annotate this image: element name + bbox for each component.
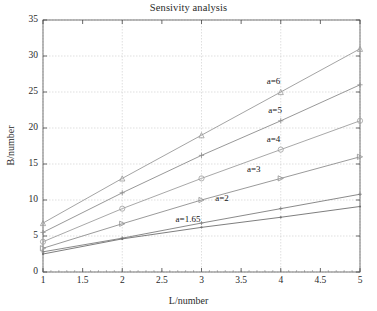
x-tick-label: 1 — [28, 275, 58, 285]
x-tick-label: 2.5 — [147, 275, 177, 285]
series-label: a=2 — [215, 193, 229, 203]
x-tick-label: 3.5 — [226, 275, 256, 285]
series-label: a=6 — [267, 76, 281, 86]
gridlines — [43, 20, 360, 272]
x-tick-label: 5 — [345, 275, 375, 285]
x-tick-label: 1.5 — [68, 275, 98, 285]
x-tick-label: 3 — [187, 275, 217, 285]
series-label: a=3 — [247, 164, 261, 174]
chart-container: Sensivity analysis B/number L/number 051… — [0, 0, 377, 311]
chart-title: Sensivity analysis — [0, 2, 377, 13]
y-tick-label: 25 — [12, 86, 38, 96]
x-tick-label: 4 — [266, 275, 296, 285]
y-tick-label: 10 — [12, 194, 38, 204]
y-tick-label: 20 — [12, 122, 38, 132]
y-tick-label: 35 — [12, 14, 38, 24]
y-tick-label: 15 — [12, 158, 38, 168]
series-label: a=5 — [268, 105, 282, 115]
series-label: a=4 — [267, 134, 281, 144]
x-axis-label: L/number — [0, 295, 377, 306]
y-tick-label: 5 — [12, 230, 38, 240]
x-tick-label: 4.5 — [305, 275, 335, 285]
y-tick-label: 30 — [12, 50, 38, 60]
series-label: a=1.65 — [176, 214, 201, 224]
plot-area — [0, 0, 377, 311]
x-tick-label: 2 — [107, 275, 137, 285]
